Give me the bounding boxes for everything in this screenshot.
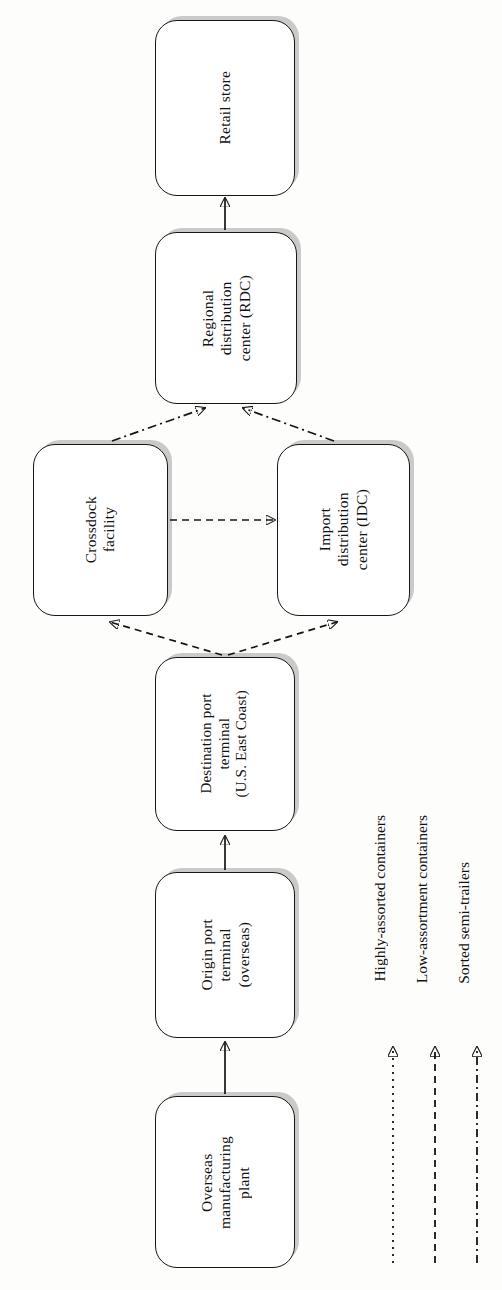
node-crossdock[interactable]: Crossdock facility (33, 444, 168, 616)
node-label-plant: Overseas manufacturing plant (198, 1136, 253, 1229)
edge-crossdock-to-rdc (112, 408, 205, 441)
legend-item-highly-assorted: Highly-assorted containers (372, 815, 414, 1285)
legend-marker-low-assortment (414, 1033, 456, 1265)
node-retail-store[interactable]: Retail store (155, 20, 295, 196)
diagram-canvas: Retail store Regional distribution cente… (0, 0, 502, 1290)
legend-item-sorted-semi-trailers: Sorted semi-trailers (456, 815, 498, 1285)
node-label-rdc: Regional distribution center (RDC) (199, 275, 254, 361)
legend-label-highly-assorted: Highly-assorted containers (372, 815, 414, 982)
node-rdc[interactable]: Regional distribution center (RDC) (155, 232, 297, 404)
edge-idc-to-rdc (243, 408, 334, 441)
node-destination-port[interactable]: Destination port terminal (U.S. East Coa… (155, 657, 295, 831)
node-label-origin-port: Origin port terminal (overseas) (198, 919, 253, 991)
node-label-idc: Import distribution center (IDC) (316, 489, 371, 570)
legend-item-low-assortment: Low-assortment containers (414, 815, 456, 1285)
legend-label-sorted-semi-trailers: Sorted semi-trailers (456, 862, 498, 984)
legend-label-low-assortment: Low-assortment containers (414, 815, 456, 983)
legend-marker-highly-assorted (372, 1033, 414, 1265)
node-plant[interactable]: Overseas manufacturing plant (155, 1096, 295, 1268)
node-label-destination-port: Destination port terminal (U.S. East Coa… (198, 690, 251, 798)
node-label-crossdock: Crossdock facility (82, 496, 119, 563)
edge-destination-port-to-crossdock (110, 622, 222, 655)
node-idc[interactable]: Import distribution center (IDC) (277, 444, 410, 616)
node-label-retail-store: Retail store (216, 71, 234, 144)
edge-destination-port-to-idc (228, 622, 337, 655)
legend-marker-sorted-semi-trailers (456, 1033, 498, 1265)
legend: Highly-assorted containers Low-assortmen… (372, 815, 502, 1285)
node-origin-port[interactable]: Origin port terminal (overseas) (155, 872, 295, 1038)
